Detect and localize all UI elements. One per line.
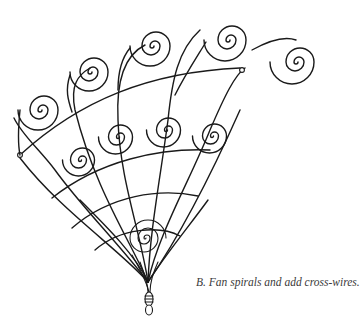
handle-bulb (146, 305, 153, 315)
fan-spiral-drawing (0, 0, 362, 319)
wire-loop-right (240, 68, 245, 73)
inner-spirals (63, 118, 227, 176)
base-spiral (130, 220, 166, 252)
figure-caption: B. Fan spirals and add cross-wires. (196, 276, 360, 288)
cross-wires (20, 68, 240, 250)
radial-wires (14, 30, 245, 282)
